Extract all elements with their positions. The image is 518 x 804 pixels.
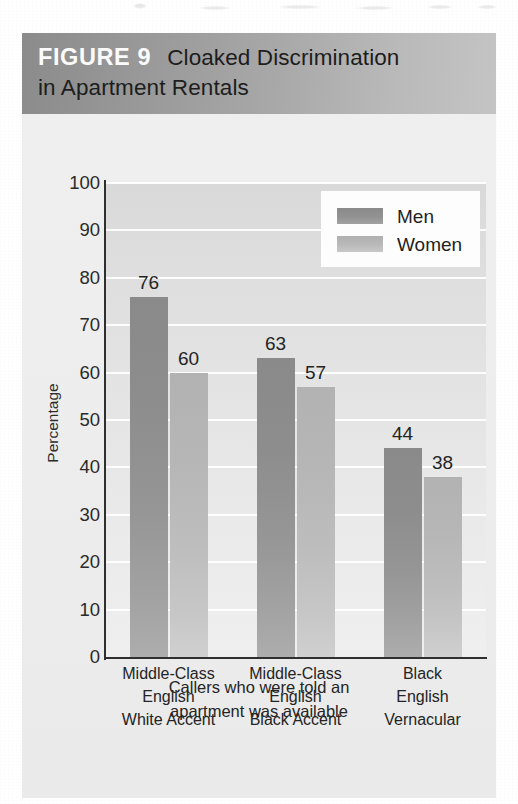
y-axis-line — [104, 180, 106, 660]
legend-item-women: Women — [321, 230, 480, 258]
figure-title-line-1: Cloaked Discrimination — [167, 45, 399, 70]
bar-value-label: 57 — [286, 362, 346, 384]
y-tick-label: 100 — [58, 172, 100, 194]
bar-value-label: 76 — [119, 272, 179, 294]
bar-value-label: 38 — [413, 452, 473, 474]
figure-card: FIGURE 9Cloaked Discrimination in Apartm… — [22, 33, 496, 798]
x-axis-line — [104, 657, 487, 659]
y-tick-label: 60 — [58, 362, 100, 384]
bar-value-label: 63 — [246, 333, 306, 355]
figure-header-line-2: in Apartment Rentals — [38, 73, 484, 103]
legend-label: Men — [397, 207, 434, 226]
y-tick-label: 80 — [58, 267, 100, 289]
legend-swatch-women — [337, 236, 383, 252]
figure-title-line-2: in Apartment Rentals — [38, 75, 249, 100]
legend-item-men: Men — [321, 202, 480, 230]
legend-swatch-men — [337, 208, 383, 224]
figure-header-band: FIGURE 9Cloaked Discrimination in Apartm… — [22, 33, 496, 114]
gridline — [105, 182, 486, 184]
bar-value-label: 60 — [159, 348, 219, 370]
y-tick-label: 10 — [58, 599, 100, 621]
figure-caption: Callers who were told an apartment was a… — [22, 675, 496, 723]
y-tick-label: 50 — [58, 409, 100, 431]
y-tick-label: 0 — [58, 646, 100, 668]
bar-women-1 — [170, 373, 208, 657]
bar-women-2 — [297, 387, 335, 657]
bar-women-3 — [424, 477, 462, 657]
figure-header-line-1: FIGURE 9Cloaked Discrimination — [38, 42, 484, 73]
chart-legend: MenWomen — [321, 191, 480, 267]
y-tick-label: 20 — [58, 551, 100, 573]
bar-value-label: 44 — [373, 423, 433, 445]
bar-men-2 — [257, 358, 295, 657]
figure-caption-line-1: Callers who were told an — [22, 675, 496, 699]
figure-caption-line-2: apartment was available — [22, 699, 496, 723]
legend-label: Women — [397, 235, 462, 254]
y-tick-label: 70 — [58, 314, 100, 336]
y-tick-label: 30 — [58, 504, 100, 526]
y-tick-label: 90 — [58, 219, 100, 241]
figure-number-label: FIGURE 9 — [38, 44, 151, 70]
bar-men-3 — [384, 448, 422, 657]
scan-artifact-top — [0, 0, 518, 22]
y-tick-label: 40 — [58, 456, 100, 478]
